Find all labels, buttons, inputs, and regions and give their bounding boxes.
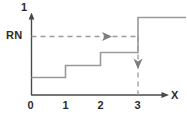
y-axis-arrowhead-icon: [29, 13, 35, 20]
step-function-figure: 1 RN X 0 1 2 3: [0, 0, 186, 116]
rn-threshold-label: RN: [6, 30, 23, 41]
x-tick-label-0: 0: [24, 100, 37, 111]
x-tick-label-3: 3: [131, 100, 144, 111]
x-axis: [32, 92, 170, 98]
step-path: [32, 18, 187, 78]
x-tick-label-2: 2: [94, 100, 107, 111]
y-axis: [29, 13, 35, 96]
x-axis-label: X: [171, 90, 178, 101]
rn-horizontal-guide: [32, 32, 139, 41]
inverse-guide-arrowhead-icon: [133, 59, 142, 70]
x-axis-arrowhead-icon: [162, 92, 170, 98]
x-tick-label-1: 1: [59, 100, 72, 111]
step-function-curve: [32, 18, 187, 78]
y-axis-max-label: 1: [21, 2, 27, 13]
